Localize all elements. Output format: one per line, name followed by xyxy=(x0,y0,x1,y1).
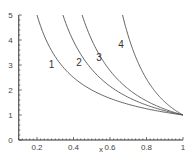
curve-3 xyxy=(82,15,183,115)
y-tick-label: 5 xyxy=(8,11,13,20)
curves xyxy=(37,15,183,115)
power-curves-chart: 0.20.40.60.81012345x 1234 xyxy=(0,0,193,162)
x-tick-label: 0.2 xyxy=(31,143,43,152)
y-tick-label: 4 xyxy=(8,36,13,45)
curve-label-1: 1 xyxy=(49,59,55,70)
x-tick-label: 0.6 xyxy=(104,143,116,152)
curve-label-3: 3 xyxy=(96,52,102,63)
axes: 0.20.40.60.81012345x xyxy=(8,11,185,154)
x-tick-label: 0.8 xyxy=(141,143,153,152)
y-tick-label: 0 xyxy=(8,136,13,145)
x-tick-label: 1 xyxy=(181,143,186,152)
y-tick-label: 1 xyxy=(8,111,13,120)
curve-label-2: 2 xyxy=(76,57,82,68)
x-axis-label: x xyxy=(99,145,103,154)
y-tick-label: 2 xyxy=(8,86,13,95)
curve-labels: 1234 xyxy=(49,39,124,70)
curve-4 xyxy=(123,15,183,115)
x-tick-label: 0.4 xyxy=(68,143,80,152)
curve-1 xyxy=(37,15,183,115)
y-tick-label: 3 xyxy=(8,61,13,70)
curve-label-4: 4 xyxy=(118,39,124,50)
